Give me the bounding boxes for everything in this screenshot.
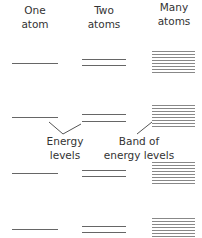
band-label: Band of energy levels: [99, 134, 179, 162]
band-line1: Band of: [99, 134, 179, 148]
band-line2: energy levels: [99, 148, 179, 162]
band-pointer: [137, 122, 152, 134]
band-2: [152, 106, 195, 127]
energy-levels-label: Energy levels: [43, 134, 87, 162]
energy-levels-line1: Energy: [43, 134, 87, 148]
band-3: [152, 163, 195, 184]
energy-diagram: [0, 0, 202, 238]
band-4: [152, 219, 195, 237]
pointer-lines: [49, 122, 152, 134]
energy-levels-line2: levels: [43, 148, 87, 162]
band-1: [152, 52, 195, 73]
energy-levels-pointer: [49, 122, 81, 134]
